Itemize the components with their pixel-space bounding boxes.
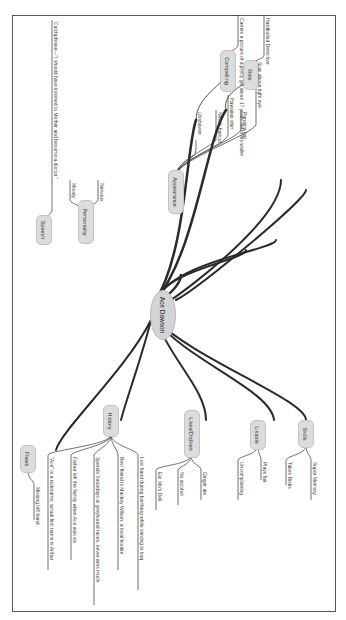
leaf-history-3[interactable]: Father left the family when Ace was six [72,457,78,543]
leaf-skills-0[interactable]: Super Memory [312,462,318,495]
leaf-personality-0[interactable]: Nervous [99,183,105,202]
central-topic-node[interactable]: Ace Dawson [150,290,176,340]
leaf-appearance-1[interactable]: Needs haircut [217,112,223,143]
branch-node-compelling[interactable]: Compelling [220,50,236,92]
mind-map-page: Ace DawsonRoleCompellingAppearancePerson… [0,0,346,620]
leaf-history-2[interactable]: Spends Saturdays at greyhound races, nev… [95,457,101,582]
leaf-likable-1[interactable]: Uncomplaining [239,462,245,495]
leaf-likes-dislikes-0[interactable]: Ginger ale [202,472,208,495]
branch-node-flaws[interactable]: Flaws [20,445,36,473]
leaf-likes-dislikes-1[interactable]: No alcohol [179,472,185,496]
leaf-appearance-2[interactable]: Hawaiian shirt [229,98,235,129]
leaf-appearance-3[interactable]: Panama hat [242,112,248,139]
branch-node-speech[interactable]: Speech [36,215,52,245]
leaf-history-0[interactable]: Lost hand during bombing while serving i… [139,457,145,560]
leaf-speech-0[interactable]: Catchphrase—"I should have listened to M… [53,22,59,179]
branch-node-likes-dislikes[interactable]: Likes/Dislikes [184,410,200,458]
leaf-appearance-4[interactable]: Scar above right eye [257,62,263,108]
leaf-history-4[interactable]: "Ace" is a nickname; actual first name i… [49,457,55,560]
leaf-history-1[interactable]: Best friend is Mackey Wilson, a local bo… [119,457,125,554]
leaf-likes-dislikes-2[interactable]: Eat Mo's Deli [157,472,163,501]
leaf-likable-0[interactable]: Plays fair [262,462,268,483]
branch-node-likable[interactable]: Likable [250,420,266,450]
branch-node-appearance[interactable]: Appearance [168,170,184,214]
leaf-personality-1[interactable]: Moody [71,183,77,198]
leaf-flaws-0[interactable]: Missing left hand [35,487,41,525]
branch-node-skills[interactable]: Skills [298,420,314,448]
mind-map-canvas: Ace DawsonRoleCompellingAppearancePerson… [0,0,346,620]
leaf-skills-1[interactable]: Takes Risks [287,462,293,489]
leaf-role-0[interactable]: Hardboiled Detective [265,18,271,64]
branch-node-history[interactable]: History [103,405,119,437]
leaf-appearance-0[interactable]: Unshaven [197,112,203,135]
branch-node-personality[interactable]: Personality [78,200,94,244]
